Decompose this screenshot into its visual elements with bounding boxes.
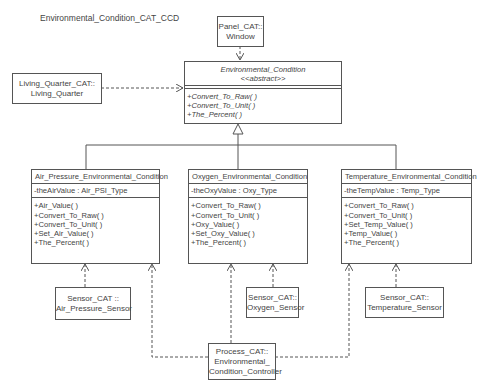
living-quarter-box[interactable]: Living_Quarter_CAT:: Living_Quarter (12, 73, 102, 104)
class-air-pressure[interactable]: Air_Pressure_Environmental_Condition -th… (31, 169, 160, 264)
living-quarter-line2: Living_Quarter (13, 89, 101, 99)
class-attribute: -theAirValue : Air_PSI_Type (32, 184, 159, 198)
operation: +Air_Value( ) (34, 201, 157, 210)
operation: +Set_Oxy_Value( ) (191, 229, 305, 238)
operation: +The_Percent( ) (34, 238, 157, 247)
class-temperature[interactable]: Temperature_Environmental_Condition -the… (341, 169, 472, 264)
operation: +Set_Temp_Value( ) (344, 220, 469, 229)
class-name: Temperature_Environmental_Condition (342, 170, 471, 184)
sensor-line2: Oxygen_Sensor (247, 303, 298, 313)
abstract-class-operations: +Convert_To_Raw( ) +Convert_To_Unit( ) +… (185, 89, 341, 123)
operation: +Convert_To_Unit( ) (34, 220, 157, 229)
dependency-controller-air (152, 264, 208, 357)
class-name: Oxygen_Environmental_Condition (189, 170, 307, 184)
living-quarter-line1: Living_Quarter_CAT:: (13, 79, 101, 89)
diagram-title: Environmental_Condition_CAT_CCD (40, 13, 179, 23)
operation: +Convert_To_Raw( ) (344, 201, 469, 210)
panel-window-line1: Panel_CAT:: (218, 22, 263, 32)
abstract-class-name: Environmental_Condition (187, 65, 339, 74)
controller-line1: Process_CAT:: (209, 347, 275, 357)
sensor-line2: Temperature_Sensor (366, 303, 443, 313)
class-operations: +Convert_To_Raw( ) +Convert_To_Unit( ) +… (189, 198, 307, 250)
sensor-line1: Sensor_CAT:: (247, 293, 298, 303)
abstract-class-environmental-condition[interactable]: Environmental_Condition <<abstract>> +Co… (184, 61, 342, 124)
operation: +Convert_To_Raw( ) (34, 211, 157, 220)
sensor-line2: Air_Pressure_Sensor (56, 304, 130, 314)
operation: +Convert_To_Unit( ) (187, 101, 339, 110)
operation: +Convert_To_Unit( ) (344, 211, 469, 220)
sensor-line1: Sensor_CAT:: (366, 293, 443, 303)
controller-line2: Environmental_ (209, 357, 275, 367)
sensor-oxygen-box[interactable]: Sensor_CAT:: Oxygen_Sensor (246, 287, 299, 318)
panel-window-box[interactable]: Panel_CAT:: Window (217, 16, 264, 47)
controller-line3: Condition_Controller (209, 367, 275, 377)
operation: +Set_Air_Value( ) (34, 229, 157, 238)
operation: +The_Percent( ) (344, 238, 469, 247)
operation: +Temp_Value( ) (344, 229, 469, 238)
operation: +Oxy_Value( ) (191, 220, 305, 229)
sensor-line1: Sensor_CAT :: (56, 294, 130, 304)
operation: +Convert_To_Raw( ) (191, 201, 305, 210)
class-operations: +Convert_To_Raw( ) +Convert_To_Unit( ) +… (342, 198, 471, 250)
class-oxygen[interactable]: Oxygen_Environmental_Condition -theOxyVa… (188, 169, 308, 264)
class-attribute: -theTempValue : Temp_Type (342, 184, 471, 198)
generalization-triangle-icon (233, 124, 243, 134)
sensor-air-pressure-box[interactable]: Sensor_CAT :: Air_Pressure_Sensor (55, 287, 131, 320)
class-operations: +Air_Value( ) +Convert_To_Raw( ) +Conver… (32, 198, 159, 250)
abstract-class-stereotype: <<abstract>> (187, 74, 339, 83)
operation: +Convert_To_Unit( ) (191, 211, 305, 220)
panel-window-line2: Window (218, 32, 263, 42)
class-attribute: -theOxyValue : Oxy_Type (189, 184, 307, 198)
operation: +The_Percent( ) (187, 110, 339, 119)
class-name: Air_Pressure_Environmental_Condition (32, 170, 159, 184)
sensor-temperature-box[interactable]: Sensor_CAT:: Temperature_Sensor (365, 287, 444, 318)
operation: +The_Percent( ) (191, 238, 305, 247)
operation: +Convert_To_Raw( ) (187, 92, 339, 101)
controller-box[interactable]: Process_CAT:: Environmental_ Condition_C… (208, 343, 276, 380)
abstract-class-header: Environmental_Condition <<abstract>> (185, 62, 341, 86)
